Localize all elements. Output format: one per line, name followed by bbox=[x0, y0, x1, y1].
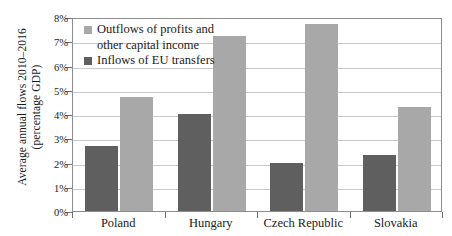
x-axis-label-slovakia: Slovakia bbox=[374, 216, 418, 231]
legend-swatch-outflows-icon bbox=[84, 26, 92, 34]
bar-inflow-hungary bbox=[178, 114, 211, 211]
legend-label-inflows: Inflows of EU transfers bbox=[97, 53, 215, 69]
y-axis-tick-label: 6% bbox=[38, 61, 68, 72]
bar-outflow-poland bbox=[120, 97, 153, 211]
bar-outflow-czech-republic bbox=[305, 24, 338, 211]
x-axis-tick bbox=[350, 212, 351, 218]
legend-item-outflows: Outflows of profits and other capital in… bbox=[84, 22, 215, 53]
y-axis-tick-label: 4% bbox=[38, 110, 68, 121]
x-axis-label-czech-republic: Czech Republic bbox=[264, 216, 344, 231]
bar-outflow-hungary bbox=[213, 36, 246, 211]
legend-label-outflows-line1: Outflows of profits and bbox=[97, 22, 214, 36]
y-axis-tick-label: 5% bbox=[38, 85, 68, 96]
chart-legend: Outflows of profits and other capital in… bbox=[84, 22, 215, 69]
legend-label-outflows: Outflows of profits and other capital in… bbox=[97, 22, 214, 53]
x-axis-tick bbox=[257, 212, 258, 218]
chart-figure: Average annual flows 2010–2016 (percenta… bbox=[0, 0, 452, 236]
y-axis-tick-label: 0% bbox=[38, 207, 68, 218]
y-axis-tick-label: 1% bbox=[38, 182, 68, 193]
bar-inflow-czech-republic bbox=[270, 163, 303, 212]
y-axis-tick-label: 2% bbox=[38, 158, 68, 169]
legend-item-inflows: Inflows of EU transfers bbox=[84, 53, 215, 69]
legend-swatch-inflows-icon bbox=[84, 57, 92, 65]
x-axis-tick bbox=[442, 212, 443, 218]
y-axis-title-line1: Average annual flows 2010–2016 bbox=[16, 28, 28, 186]
x-axis-tick bbox=[165, 212, 166, 218]
bar-outflow-slovakia bbox=[398, 107, 431, 211]
bar-inflow-slovakia bbox=[363, 155, 396, 211]
y-axis-tick-label: 7% bbox=[38, 37, 68, 48]
y-axis-tick-label: 3% bbox=[38, 134, 68, 145]
bar-inflow-poland bbox=[85, 146, 118, 211]
x-axis-tick bbox=[72, 212, 73, 218]
x-axis-label-poland: Poland bbox=[101, 216, 136, 231]
x-axis-label-hungary: Hungary bbox=[189, 216, 233, 231]
legend-label-outflows-line2: other capital income bbox=[97, 38, 214, 54]
y-axis-tick-label: 8% bbox=[38, 13, 68, 24]
